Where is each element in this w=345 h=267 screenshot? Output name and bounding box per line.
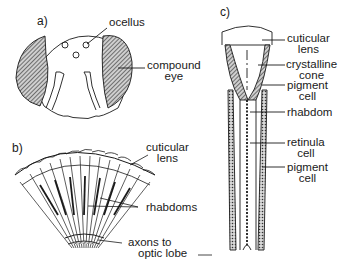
compound-eye-left [16, 36, 48, 106]
panel-b-tag: b) [12, 141, 23, 155]
label-cuticular-lens-b: cuticular lens [146, 142, 189, 164]
label-compound-eye: compound eye [147, 60, 201, 82]
label-pigment-cell-upper: pigment cell [287, 80, 328, 102]
label-rhabdom: rhabdom [287, 107, 332, 118]
label-crystalline-cone: crystalline cone [286, 59, 337, 81]
compound-eye-right [102, 36, 132, 108]
label-pigment-cell-lower: pigment cell [287, 162, 328, 184]
label-retinula-cell: retinula cell [287, 137, 325, 159]
label-rhabdoms: rhabdoms [146, 202, 197, 213]
panel-c-tag: c) [220, 5, 230, 19]
ommatidium [222, 26, 285, 250]
label-axons-to-optic-lobe: axons to optic lobe [126, 237, 187, 259]
label-ocellus: ocellus [109, 17, 145, 28]
panel-a-tag: a) [37, 14, 48, 28]
insect-head [16, 28, 145, 119]
label-cuticular-lens-c: cuticular lens [287, 33, 330, 55]
